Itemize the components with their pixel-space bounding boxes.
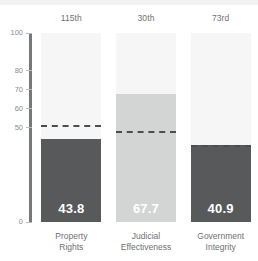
y-axis-tick-mark [26,108,32,109]
rank-label-government-integrity: 73rd [183,10,258,26]
category-label-government-integrity: Government Integrity [183,231,258,253]
y-axis-tick-80: 80 [0,66,32,76]
bar-group: 43.8 67.7 40.9 [34,28,258,228]
reference-line-property-rights [41,125,101,127]
bar-judicial-effectiveness[interactable]: 67.7 [116,94,176,222]
reference-line-judicial-effectiveness [116,131,176,133]
y-axis-tick-label: 80 [15,66,23,76]
category-label-line-2: Rights [34,242,109,253]
y-axis-tick-70: 70 [0,85,32,95]
y-axis-tick-label: 0 [19,217,23,227]
y-axis-tick-mark [26,70,32,71]
y-axis-tick-label: 50 [15,123,23,133]
chart-screenshot: 115th 30th 73rd 100807060500 43.8 67.7 [0,0,258,261]
top-edge-strip [0,0,258,5]
y-axis-tick-label: 60 [15,104,23,114]
column-government-integrity: 40.9 [191,28,251,228]
category-label-line-1: Property [55,231,87,241]
category-label-judicial-effectiveness: Judicial Effectiveness [109,231,184,253]
bar-value-property-rights: 43.8 [41,201,101,216]
reference-line-government-integrity [191,145,251,147]
y-axis-tick-0: 0 [0,217,32,227]
y-axis-tick-mark [26,33,32,34]
category-label-property-rights: Property Rights [34,231,109,253]
y-axis-tick-60: 60 [0,104,32,114]
plot-area: 100807060500 43.8 67.7 40.9 [0,28,258,228]
column-judicial-effectiveness: 67.7 [116,28,176,228]
y-axis-tick-mark [26,127,32,128]
bar-value-government-integrity: 40.9 [191,201,251,216]
bar-property-rights[interactable]: 43.8 [41,139,101,222]
y-axis-tick-label: 100 [10,28,23,38]
column-property-rights: 43.8 [41,28,101,228]
y-axis-tick-label: 70 [15,85,23,95]
rank-label-judicial-effectiveness: 30th [109,10,184,26]
bar-value-judicial-effectiveness: 67.7 [116,201,176,216]
rank-label-row: 115th 30th 73rd [34,10,258,26]
category-label-line-1: Government [197,231,244,241]
y-axis-tick-50: 50 [0,123,32,133]
category-label-line-2: Integrity [183,242,258,253]
rank-label-property-rights: 115th [34,10,109,26]
y-axis-tick-100: 100 [0,28,32,38]
category-label-line-1: Judicial [132,231,160,241]
category-label-row: Property Rights Judicial Effectiveness G… [34,231,258,253]
bar-government-integrity[interactable]: 40.9 [191,145,251,222]
category-label-line-2: Effectiveness [109,242,184,253]
y-axis-tick-mark [26,89,32,90]
y-axis-tick-mark [26,222,32,223]
